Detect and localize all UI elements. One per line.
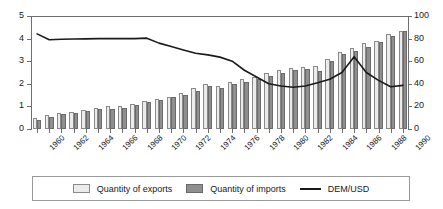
legend-item-demusd: DEM/USD	[300, 184, 370, 194]
right-axis-tick-label: 100	[414, 11, 436, 20]
x-axis-tick	[391, 129, 392, 133]
x-axis-tick-label: 1966	[121, 134, 139, 152]
x-axis-tick-label: 1988	[390, 134, 408, 152]
x-axis-tick	[183, 129, 184, 133]
x-axis-tick	[61, 129, 62, 133]
legend-label-exports: Quantity of exports	[97, 184, 173, 194]
x-axis-tick-label: 1982	[317, 134, 335, 152]
x-axis-tick	[159, 129, 160, 133]
light-square-icon	[73, 184, 90, 193]
x-axis-tick	[366, 129, 367, 133]
x-axis-tick	[232, 129, 233, 133]
x-axis-tick	[305, 129, 306, 133]
left-axis-tick-label: 2	[4, 79, 24, 88]
x-axis-tick	[269, 129, 270, 133]
x-axis-tick-label: 1972	[195, 134, 213, 152]
x-axis-tick	[354, 129, 355, 133]
x-axis-tick-label: 1974	[219, 134, 237, 152]
legend-label-demusd: DEM/USD	[328, 184, 370, 194]
dark-square-icon	[186, 184, 203, 193]
x-axis-tick	[86, 129, 87, 133]
x-axis-tick	[403, 129, 404, 133]
x-axis-tick-label: 1970	[170, 134, 188, 152]
x-axis-tick-label: 1964	[97, 134, 115, 152]
x-axis-tick-label: 1968	[146, 134, 164, 152]
plot-area: 012345 020406080100 19601962196419661968…	[31, 16, 409, 130]
chart-legend: Quantity of exports Quantity of imports …	[32, 176, 410, 201]
x-axis-tick-label: 1976	[243, 134, 261, 152]
x-axis-tick-label: 1986	[365, 134, 383, 152]
x-axis-tick-label: 1960	[48, 134, 66, 152]
x-axis-tick-label: 1990	[414, 134, 432, 152]
x-axis-tick-label: 1978	[268, 134, 286, 152]
right-axis-tick	[408, 129, 412, 130]
x-axis-tick	[98, 129, 99, 133]
right-axis-tick-label: 0	[414, 124, 436, 133]
right-axis-tick-label: 20	[414, 101, 436, 110]
left-axis-tick	[27, 129, 31, 130]
dem-usd-polyline	[37, 34, 403, 87]
left-axis-tick-label: 0	[4, 124, 24, 133]
left-axis-tick-label: 1	[4, 101, 24, 110]
x-axis-tick	[293, 129, 294, 133]
x-axis-tick-label: 1980	[292, 134, 310, 152]
right-axis-tick-label: 60	[414, 56, 436, 65]
x-axis-tick	[244, 129, 245, 133]
left-axis-tick-label: 5	[4, 11, 24, 20]
x-axis-tick-label: 1962	[73, 134, 91, 152]
x-axis-tick	[196, 129, 197, 133]
legend-label-imports: Quantity of imports	[210, 184, 286, 194]
left-axis-tick-label: 4	[4, 34, 24, 43]
left-axis-tick-label: 3	[4, 56, 24, 65]
dem-usd-line-series	[31, 16, 409, 129]
x-axis-tick	[122, 129, 123, 133]
right-axis-tick-label: 80	[414, 34, 436, 43]
line-marker-icon	[300, 188, 321, 190]
x-axis-tick	[342, 129, 343, 133]
x-axis-tick	[281, 129, 282, 133]
x-axis-tick	[110, 129, 111, 133]
legend-item-exports: Quantity of exports	[73, 184, 173, 194]
x-axis-tick-label: 1984	[341, 134, 359, 152]
x-axis-tick	[135, 129, 136, 133]
legend-item-imports: Quantity of imports	[186, 184, 286, 194]
x-axis-tick	[330, 129, 331, 133]
x-axis-tick	[257, 129, 258, 133]
right-axis-tick-label: 40	[414, 79, 436, 88]
x-axis-tick	[49, 129, 50, 133]
x-axis-tick	[171, 129, 172, 133]
x-axis-tick	[208, 129, 209, 133]
chart-root: 012345 020406080100 19601962196419661968…	[0, 0, 443, 209]
x-axis-tick	[318, 129, 319, 133]
x-axis-tick	[220, 129, 221, 133]
x-axis-tick	[74, 129, 75, 133]
x-axis-tick	[379, 129, 380, 133]
x-axis-tick	[37, 129, 38, 133]
x-axis-tick	[147, 129, 148, 133]
